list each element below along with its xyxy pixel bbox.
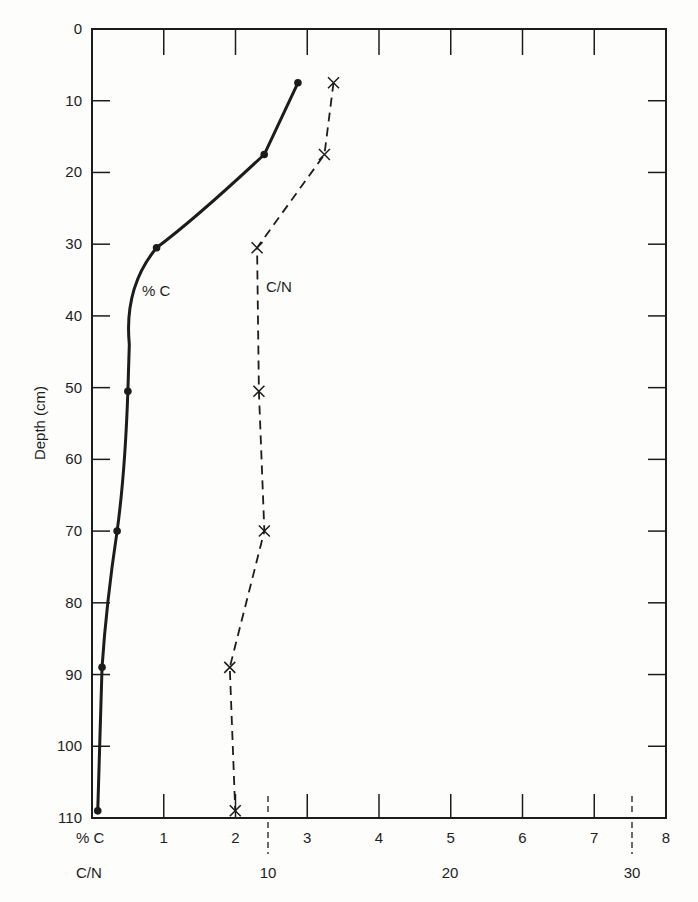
cn-line [230,83,334,811]
pct-c-marker [294,79,302,87]
series-group [94,77,339,816]
y-tick-label: 100 [57,737,82,754]
pct-c-marker [94,807,102,815]
depth-profile-chart: 0102030405060708090100110 12345678102030… [0,0,698,902]
x-axis-ticks: 12345678102030 [160,29,671,881]
y-axis-label: Depth (cm) [31,386,48,460]
pct-c-marker [98,664,106,672]
x-tick-label-cn: 20 [442,864,459,881]
cn-marker-x-icon [252,242,263,253]
y-tick-label: 60 [65,450,82,467]
x-tick-label-pct-c: 5 [447,829,455,846]
x-tick-label-cn: 10 [260,864,277,881]
y-tick-label: 30 [65,235,82,252]
y-tick-label: 90 [65,666,82,683]
x-axis-label-pct-c: % C [76,829,105,846]
x-tick-label-pct-c: 7 [590,829,598,846]
y-tick-label: 80 [65,594,82,611]
pct-c-line [98,83,298,811]
x-tick-label-pct-c: 6 [518,829,526,846]
series-label-pct-c: % C [142,282,171,299]
x-tick-label-cn: 30 [624,864,641,881]
plot-frame [92,29,666,818]
plot-border [92,29,666,818]
y-axis-ticks: 0102030405060708090100110 [57,20,666,826]
x-axis-label-cn: C/N [76,864,102,881]
y-tick-label: 50 [65,379,82,396]
x-tick-label-pct-c: 8 [662,829,670,846]
y-tick-label: 0 [74,20,82,37]
pct-c-marker [153,244,161,252]
x-tick-label-pct-c: 4 [375,829,383,846]
x-tick-label-pct-c: 1 [160,829,168,846]
y-tick-label: 20 [65,163,82,180]
x-tick-label-pct-c: 2 [231,829,239,846]
y-tick-label: 110 [58,809,82,826]
pct-c-marker [260,151,268,159]
x-tick-label-pct-c: 3 [303,829,311,846]
pct-c-marker [124,387,132,395]
y-tick-label: 70 [65,522,82,539]
y-tick-label: 10 [65,92,82,109]
series-label-cn: C/N [266,278,292,295]
y-tick-label: 40 [65,307,82,324]
pct-c-marker [113,527,121,535]
